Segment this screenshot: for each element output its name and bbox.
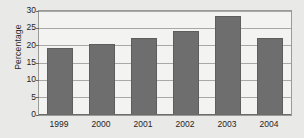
y-tick-label: 0 bbox=[12, 110, 36, 119]
x-tick-label: 1999 bbox=[50, 119, 69, 129]
x-tick-label: 2004 bbox=[260, 119, 279, 129]
y-tick-label: 5 bbox=[12, 92, 36, 101]
y-tick-label: 25 bbox=[12, 23, 36, 32]
y-tick-mark bbox=[36, 115, 39, 116]
y-axis-tick-labels: 051015202530 bbox=[12, 6, 36, 116]
bar bbox=[257, 38, 282, 115]
plot-area bbox=[38, 10, 292, 116]
y-tick-label: 30 bbox=[12, 6, 36, 15]
y-tick-label: 10 bbox=[12, 75, 36, 84]
x-tick-label: 2003 bbox=[218, 119, 237, 129]
bars-layer bbox=[39, 11, 291, 115]
bar bbox=[131, 38, 156, 115]
y-tick-label: 15 bbox=[12, 58, 36, 67]
x-tick-label: 2001 bbox=[134, 119, 153, 129]
bar bbox=[47, 48, 72, 115]
y-tick-label: 20 bbox=[12, 40, 36, 49]
x-axis-line bbox=[39, 114, 291, 115]
bar-chart-figure: Percentage 051015202530 1999200020012002… bbox=[0, 0, 304, 138]
bar bbox=[215, 16, 240, 114]
x-tick-label: 2002 bbox=[176, 119, 195, 129]
bar bbox=[173, 31, 198, 115]
bar bbox=[89, 44, 114, 114]
x-axis-tick-labels: 199920002001200220032004 bbox=[38, 119, 292, 133]
x-tick-label: 2000 bbox=[92, 119, 111, 129]
